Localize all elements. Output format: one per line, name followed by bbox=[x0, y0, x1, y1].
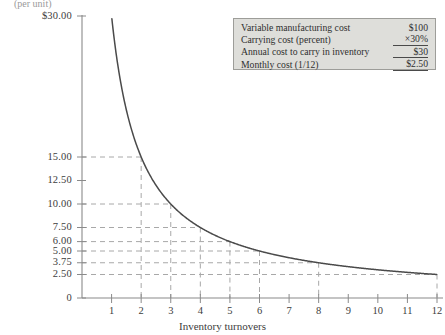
x-tick-label: 4 bbox=[188, 305, 212, 316]
legend-row: Variable manufacturing cost$100 bbox=[241, 22, 428, 33]
x-tick-label: 10 bbox=[366, 305, 390, 316]
x-tick-label: 8 bbox=[307, 305, 331, 316]
legend-row: Monthly cost (1/12)$2.50 bbox=[241, 58, 428, 70]
x-tick-label: 3 bbox=[159, 305, 183, 316]
legend-row-label: Variable manufacturing cost bbox=[241, 22, 393, 33]
y-tick-label: 5.00 bbox=[2, 245, 72, 256]
x-tick-label: 2 bbox=[129, 305, 153, 316]
x-tick-label: 1 bbox=[100, 305, 124, 316]
guide-lines bbox=[82, 157, 437, 298]
x-tick-label: 9 bbox=[336, 305, 360, 316]
y-tick-label: 7.50 bbox=[2, 221, 72, 232]
x-tick-label: 7 bbox=[277, 305, 301, 316]
x-axis-title: Inventory turnovers bbox=[0, 320, 445, 332]
legend-row-label: Carrying cost (percent) bbox=[241, 33, 393, 45]
x-tick-label: 12 bbox=[425, 305, 445, 316]
y-tick-label: $30.00 bbox=[2, 10, 72, 21]
legend-row-value: $30 bbox=[393, 45, 428, 57]
legend-row-value: $2.50 bbox=[393, 58, 428, 70]
x-tick-label: 5 bbox=[218, 305, 242, 316]
y-tick-label: 12.50 bbox=[2, 174, 72, 185]
y-tick-label: 15.00 bbox=[2, 151, 72, 162]
y-tick-label: 6.00 bbox=[2, 235, 72, 246]
legend-row: Carrying cost (percent)×30% bbox=[241, 33, 428, 45]
legend-row-label: Annual cost to carry in inventory bbox=[241, 45, 393, 57]
y-tick-label: 2.50 bbox=[2, 268, 72, 279]
legend-row: Annual cost to carry in inventory$30 bbox=[241, 45, 428, 57]
legend-row-label: Monthly cost (1/12) bbox=[241, 58, 393, 70]
x-tick-label: 11 bbox=[395, 305, 419, 316]
x-tick-label: 6 bbox=[248, 305, 272, 316]
y-tick-label: 3.75 bbox=[2, 256, 72, 267]
y-tick-label: 10.00 bbox=[2, 198, 72, 209]
legend-box: Variable manufacturing cost$100Carrying … bbox=[233, 18, 436, 70]
y-tick-label: 0 bbox=[2, 292, 72, 303]
legend-row-value: $100 bbox=[393, 22, 428, 33]
legend-table: Variable manufacturing cost$100Carrying … bbox=[241, 22, 428, 71]
chart-container: (per unit) 02.503.755.006.007.5010.0012.… bbox=[0, 0, 445, 335]
legend-row-value: ×30% bbox=[393, 33, 428, 45]
